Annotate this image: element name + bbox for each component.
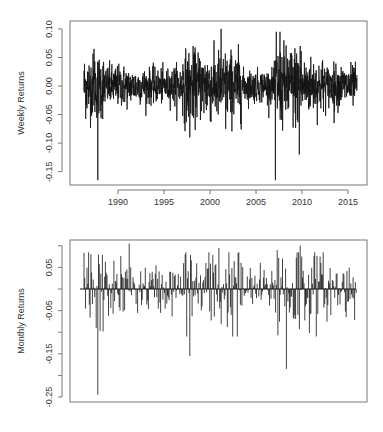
weekly-y-axis-label: Weekly Returns [16,71,26,135]
figure: 0.100.050.00-0.05-0.10-0.15 199019952000… [0,0,383,432]
weekly-y-tick-label: 0.05 [44,49,54,67]
weekly-returns-series [84,29,357,180]
monthly-y-axis-label: Monthly Returns [16,288,26,354]
monthly-returns-series [84,244,356,395]
weekly-x-tick-label: 2000 [200,197,220,207]
weekly-y-tick-label: 0.00 [44,77,54,95]
weekly-y-axis: 0.100.050.00-0.05-0.10-0.15 [44,20,62,182]
monthly-y-axis: 0.05-0.05-0.15-0.25 [44,246,62,407]
weekly-x-tick-label: 1990 [108,197,128,207]
monthly-y-tick-label: -0.15 [44,344,54,365]
weekly-x-tick-label: 1995 [154,197,174,207]
weekly-y-tick-label: 0.10 [44,20,54,38]
monthly-y-tick-label: 0.05 [44,259,54,277]
weekly-y-tick-label: -0.15 [44,161,54,182]
monthly-y-tick-label: -0.25 [44,387,54,408]
monthly-returns-panel: 0.05-0.05-0.15-0.25 Monthly Returns [16,240,367,407]
weekly-x-tick-label: 2005 [246,197,266,207]
weekly-y-tick-label: -0.05 [44,104,54,125]
weekly-x-tick-label: 2015 [338,197,358,207]
weekly-x-tick-label: 2010 [292,197,312,207]
weekly-returns-panel: 0.100.050.00-0.05-0.10-0.15 199019952000… [16,20,367,207]
weekly-x-axis: 199019952000200520102015 [108,190,358,207]
monthly-y-tick-label: -0.05 [44,300,54,321]
weekly-y-tick-label: -0.10 [44,133,54,154]
